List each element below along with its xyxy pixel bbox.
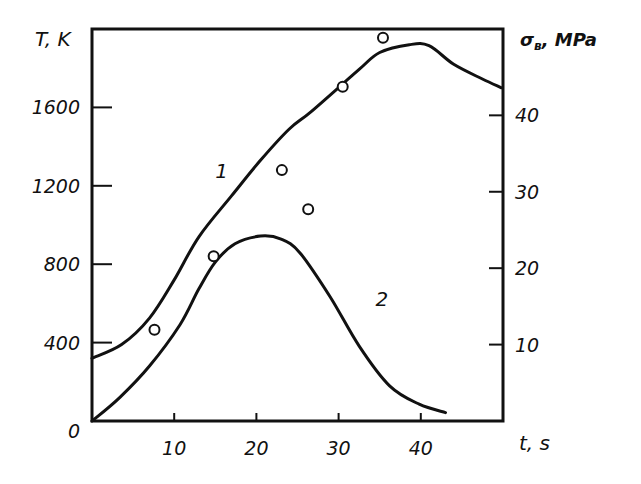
curve-label-1: 1 (215, 159, 228, 183)
left-tick-label: 1600 (32, 96, 80, 118)
left-tick-label: 400 (44, 332, 80, 354)
right-axis-title: σв, MPa (520, 29, 597, 53)
left-axis-title: T, K (35, 27, 73, 51)
right-tick-label: 10 (515, 334, 539, 356)
data-point-circle (338, 82, 348, 92)
curve-2 (92, 236, 446, 421)
data-point-circle (209, 251, 219, 261)
right-tick-label: 30 (515, 181, 539, 203)
right-axis-title-unit: , MPa (541, 29, 597, 50)
data-point-circle (277, 165, 287, 175)
x-tick-label: 20 (244, 437, 268, 459)
chart: 1020304004008001200160010203040 T, K σв,… (0, 0, 641, 484)
left-tick-label: 800 (44, 253, 80, 275)
data-point-circle (378, 33, 388, 43)
temperature-strength-chart: 1020304004008001200160010203040 T, K σв,… (0, 0, 641, 484)
left-tick-label: 1200 (32, 175, 80, 197)
right-tick-label: 40 (515, 104, 539, 126)
x-tick-label: 40 (409, 437, 433, 459)
axis-ticks: 1020304004008001200160010203040 (32, 96, 540, 459)
right-tick-label: 20 (515, 257, 539, 279)
right-axis-title-sigma: σ (520, 29, 535, 50)
labels: T, K σв, MPa t, s 12 (35, 27, 597, 455)
data-point-circle (303, 204, 313, 214)
curves (92, 44, 501, 421)
curve-1 (92, 44, 501, 359)
x-tick-label: 10 (162, 437, 186, 459)
left-tick-label: 0 (68, 420, 80, 442)
x-axis-title: t, s (519, 431, 550, 455)
data-markers (149, 33, 388, 335)
curve-label-2: 2 (376, 287, 389, 311)
data-point-circle (149, 325, 159, 335)
x-tick-label: 30 (327, 437, 351, 459)
